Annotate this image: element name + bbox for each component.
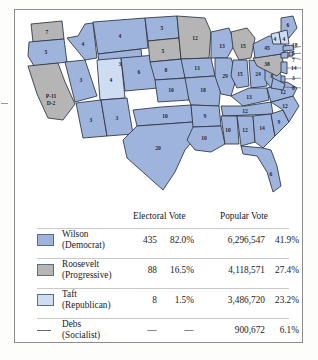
- candidate-taft: Taft (Republican): [62, 289, 111, 312]
- swatch-socialist-dash: [37, 330, 51, 331]
- callout-delaware: 3: [292, 75, 295, 81]
- page-edge-tick: [1, 103, 8, 104]
- candidate-roosevelt: Roosevelt (Progressive): [62, 259, 112, 282]
- taft-electoral-pct: 1.5%: [162, 295, 194, 305]
- wilson-popular-pct: 41.9%: [269, 235, 299, 245]
- map-svg: .d{fill:#9fb4dd;} .p{fill:#b5b5b5;} .r{f…: [15, 10, 301, 206]
- label-vermont: 4: [274, 36, 277, 42]
- swatch-republican: [37, 294, 54, 306]
- label-california: P-11: [46, 93, 57, 99]
- label-idaho: 4: [82, 41, 85, 47]
- label-indiana: 15: [237, 71, 243, 77]
- debs-popular-pct: 6.1%: [269, 325, 299, 335]
- debs-popular-votes: 900,672: [211, 325, 265, 335]
- label-west-virginia: 8: [271, 73, 274, 79]
- callout-maryland: 8: [292, 85, 295, 91]
- state-florida: [241, 146, 281, 192]
- candidate-party: (Socialist): [62, 330, 100, 341]
- callout-new-jersey: 14: [291, 65, 297, 71]
- header-electoral-vote: Electoral Vote: [133, 211, 186, 221]
- label-pennsylvania: 38: [264, 61, 270, 67]
- label-kansas: 10: [168, 87, 174, 93]
- label-california-d: D-2: [47, 100, 56, 106]
- callout-labels: 18 5 7 14 3 8: [291, 42, 298, 91]
- label-alabama: 12: [242, 127, 248, 133]
- label-missouri: 18: [200, 87, 206, 93]
- label-north-dakota: 5: [161, 25, 164, 31]
- candidate-debs: Debs (Socialist): [62, 319, 100, 342]
- state-nebraska: [150, 59, 185, 80]
- candidate-name: Taft: [62, 289, 111, 300]
- label-kentucky: 13: [246, 94, 252, 100]
- us-electoral-map: .d{fill:#9fb4dd;} .p{fill:#b5b5b5;} .r{f…: [15, 10, 301, 206]
- debs-electoral-pct: —: [162, 325, 194, 335]
- label-maine: 6: [287, 22, 290, 28]
- header-popular-vote: Popular Vote: [220, 211, 268, 221]
- legend-row-taft: Taft (Republican) 8 1.5% 3,486,720 23.2%: [15, 288, 301, 318]
- label-mississippi: 10: [225, 127, 231, 133]
- debs-electoral-votes: —: [133, 325, 157, 335]
- state-south-dakota: [148, 38, 181, 62]
- label-nevada: 3: [80, 77, 83, 83]
- label-virginia: 12: [280, 89, 286, 95]
- label-nebraska: 8: [165, 67, 168, 73]
- label-arizona: 3: [90, 117, 93, 123]
- roosevelt-popular-pct: 27.4%: [269, 265, 299, 275]
- candidate-party: (Republican): [62, 300, 111, 311]
- taft-electoral-votes: 8: [133, 295, 157, 305]
- label-florida: 6: [270, 171, 273, 177]
- label-arkansas: 9: [204, 113, 207, 119]
- label-ohio: 24: [255, 71, 261, 77]
- wilson-popular-votes: 6,296,547: [211, 235, 265, 245]
- label-south-carolina: 9: [278, 119, 281, 125]
- label-washington: 7: [46, 29, 49, 35]
- label-tennessee: 12: [242, 108, 248, 114]
- state-delaware: [281, 76, 285, 82]
- candidate-party: (Progressive): [62, 270, 112, 281]
- label-new-hampshire: 4: [283, 36, 286, 42]
- roosevelt-electoral-votes: 88: [133, 265, 157, 275]
- label-minnesota: 12: [192, 35, 198, 41]
- candidate-wilson: Wilson (Democrat): [62, 229, 105, 252]
- label-utah: 4: [110, 77, 113, 83]
- candidate-name: Debs: [62, 319, 100, 330]
- label-south-dakota: 5: [162, 48, 165, 54]
- label-north-carolina: 12: [282, 103, 288, 109]
- swatch-democrat: [37, 234, 54, 246]
- label-oregon: 5: [45, 49, 48, 55]
- label-colorado: 6: [138, 69, 141, 75]
- swatch-progressive: [37, 264, 54, 276]
- label-montana: 4: [119, 33, 122, 39]
- state-texas: [123, 122, 195, 190]
- legend-row-wilson: Wilson (Democrat) 435 82.0% 6,296,547 41…: [15, 228, 301, 258]
- label-wyoming: 3: [119, 61, 122, 67]
- label-wisconsin: 13: [219, 43, 225, 49]
- label-new-mexico: 3: [116, 115, 119, 121]
- candidate-name: Wilson: [62, 229, 105, 240]
- taft-popular-votes: 3,486,720: [211, 295, 265, 305]
- election-map-figure: .d{fill:#9fb4dd;} .p{fill:#b5b5b5;} .r{f…: [14, 9, 303, 343]
- taft-popular-pct: 23.2%: [269, 295, 299, 305]
- label-new-york: 45: [264, 45, 270, 51]
- label-oklahoma: 10: [162, 113, 168, 119]
- state-shapes: [28, 16, 299, 192]
- callout-connecticut: 7: [292, 57, 295, 63]
- roosevelt-popular-votes: 4,118,571: [211, 265, 265, 275]
- roosevelt-electoral-pct: 16.5%: [162, 265, 194, 275]
- candidate-party: (Democrat): [62, 240, 105, 251]
- wilson-electoral-pct: 82.0%: [162, 235, 194, 245]
- label-louisiana: 10: [201, 135, 207, 141]
- label-michigan: 15: [240, 43, 246, 49]
- legend-table: Electoral Vote Popular Vote Wilson (Demo…: [15, 206, 301, 342]
- label-iowa: 13: [194, 65, 200, 71]
- callout-rhode-island: 5: [292, 50, 295, 56]
- wilson-electoral-votes: 435: [133, 235, 157, 245]
- candidate-name: Roosevelt: [62, 259, 112, 270]
- label-texas: 20: [155, 145, 161, 151]
- label-illinois: 29: [222, 73, 228, 79]
- state-new-jersey: [281, 62, 287, 74]
- label-georgia: 14: [259, 125, 265, 131]
- callout-massachusetts: 18: [292, 42, 298, 48]
- state-oregon: [28, 39, 67, 66]
- legend-row-roosevelt: Roosevelt (Progressive) 88 16.5% 4,118,5…: [15, 258, 301, 288]
